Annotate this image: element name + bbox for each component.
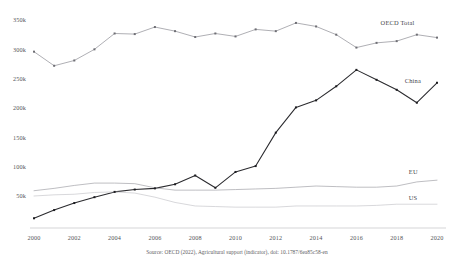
data-point-marker bbox=[295, 106, 297, 108]
x-tick-label: 2020 bbox=[431, 234, 444, 241]
y-tick-label: 200k bbox=[13, 104, 27, 111]
y-tick-label: 150k bbox=[13, 134, 27, 141]
data-point-marker bbox=[194, 36, 196, 38]
data-point-marker bbox=[436, 82, 438, 84]
data-point-marker bbox=[33, 217, 35, 219]
y-tick-label: 50k bbox=[16, 192, 26, 199]
chart-container: 50k100k150k200k250k300k350k 200020022004… bbox=[0, 0, 458, 271]
data-point-marker bbox=[376, 79, 378, 81]
x-axis-tick-labels: 2000200220042006200820102012201420162018… bbox=[28, 234, 444, 241]
data-point-marker bbox=[134, 189, 136, 191]
x-tick-label: 2008 bbox=[189, 234, 202, 241]
data-point-marker bbox=[255, 28, 257, 30]
data-point-marker bbox=[53, 209, 55, 211]
x-tick-label: 2010 bbox=[229, 234, 242, 241]
data-point-marker bbox=[355, 47, 357, 49]
data-point-marker bbox=[134, 33, 136, 35]
data-point-marker bbox=[214, 32, 216, 34]
source-note: Source: OECD (2022), Agricultural suppor… bbox=[146, 249, 328, 256]
series-label-oecd-total: OECD Total bbox=[381, 19, 415, 26]
data-point-marker bbox=[53, 65, 55, 67]
series-line-china bbox=[34, 70, 437, 218]
data-point-marker bbox=[255, 165, 257, 167]
data-point-marker bbox=[93, 48, 95, 50]
series-label-eu: EU bbox=[409, 168, 418, 175]
series-lines bbox=[34, 23, 437, 218]
series-line-us bbox=[34, 192, 437, 207]
data-point-marker bbox=[335, 34, 337, 36]
data-point-marker bbox=[275, 132, 277, 134]
x-tick-label: 2004 bbox=[108, 234, 121, 241]
data-point-marker bbox=[93, 196, 95, 198]
data-point-marker bbox=[315, 25, 317, 27]
y-tick-label: 300k bbox=[13, 46, 27, 53]
data-point-marker bbox=[235, 171, 237, 173]
data-point-marker bbox=[194, 174, 196, 176]
x-tick-label: 2006 bbox=[148, 234, 161, 241]
data-point-marker bbox=[214, 187, 216, 189]
data-point-marker bbox=[174, 183, 176, 185]
data-point-marker bbox=[416, 34, 418, 36]
data-point-marker bbox=[174, 30, 176, 32]
data-point-marker bbox=[416, 102, 418, 104]
series-line-eu bbox=[34, 180, 437, 191]
y-tick-label: 100k bbox=[13, 163, 27, 170]
x-tick-label: 2018 bbox=[390, 234, 403, 241]
data-point-marker bbox=[295, 22, 297, 24]
data-point-marker bbox=[376, 42, 378, 44]
y-tick-label: 350k bbox=[13, 16, 27, 23]
data-point-marker bbox=[33, 51, 35, 53]
data-point-marker bbox=[235, 35, 237, 37]
y-axis-tick-labels: 50k100k150k200k250k300k350k bbox=[13, 16, 27, 199]
data-point-marker bbox=[154, 187, 156, 189]
data-point-marker bbox=[154, 26, 156, 28]
data-point-marker bbox=[114, 32, 116, 34]
x-tick-label: 2000 bbox=[28, 234, 41, 241]
x-tick-label: 2002 bbox=[68, 234, 81, 241]
data-point-marker bbox=[73, 202, 75, 204]
series-line-oecd-total bbox=[34, 23, 437, 66]
series-label-china: China bbox=[405, 77, 421, 84]
data-point-marker bbox=[436, 37, 438, 39]
x-tick-label: 2014 bbox=[310, 234, 323, 241]
x-tick-label: 2012 bbox=[269, 234, 282, 241]
series-label-us: US bbox=[409, 194, 418, 201]
x-tick-label: 2016 bbox=[350, 234, 363, 241]
line-chart-svg: 50k100k150k200k250k300k350k 200020022004… bbox=[0, 0, 458, 271]
y-tick-label: 250k bbox=[13, 75, 27, 82]
data-point-marker bbox=[396, 89, 398, 91]
data-point-marker bbox=[114, 191, 116, 193]
data-point-marker bbox=[275, 30, 277, 32]
data-point-marker bbox=[315, 99, 317, 101]
data-point-marker bbox=[355, 69, 357, 71]
data-point-marker bbox=[335, 85, 337, 87]
series-labels: OECD TotalChinaEUUS bbox=[381, 19, 421, 201]
data-point-marker bbox=[396, 40, 398, 42]
data-point-marker bbox=[73, 59, 75, 61]
